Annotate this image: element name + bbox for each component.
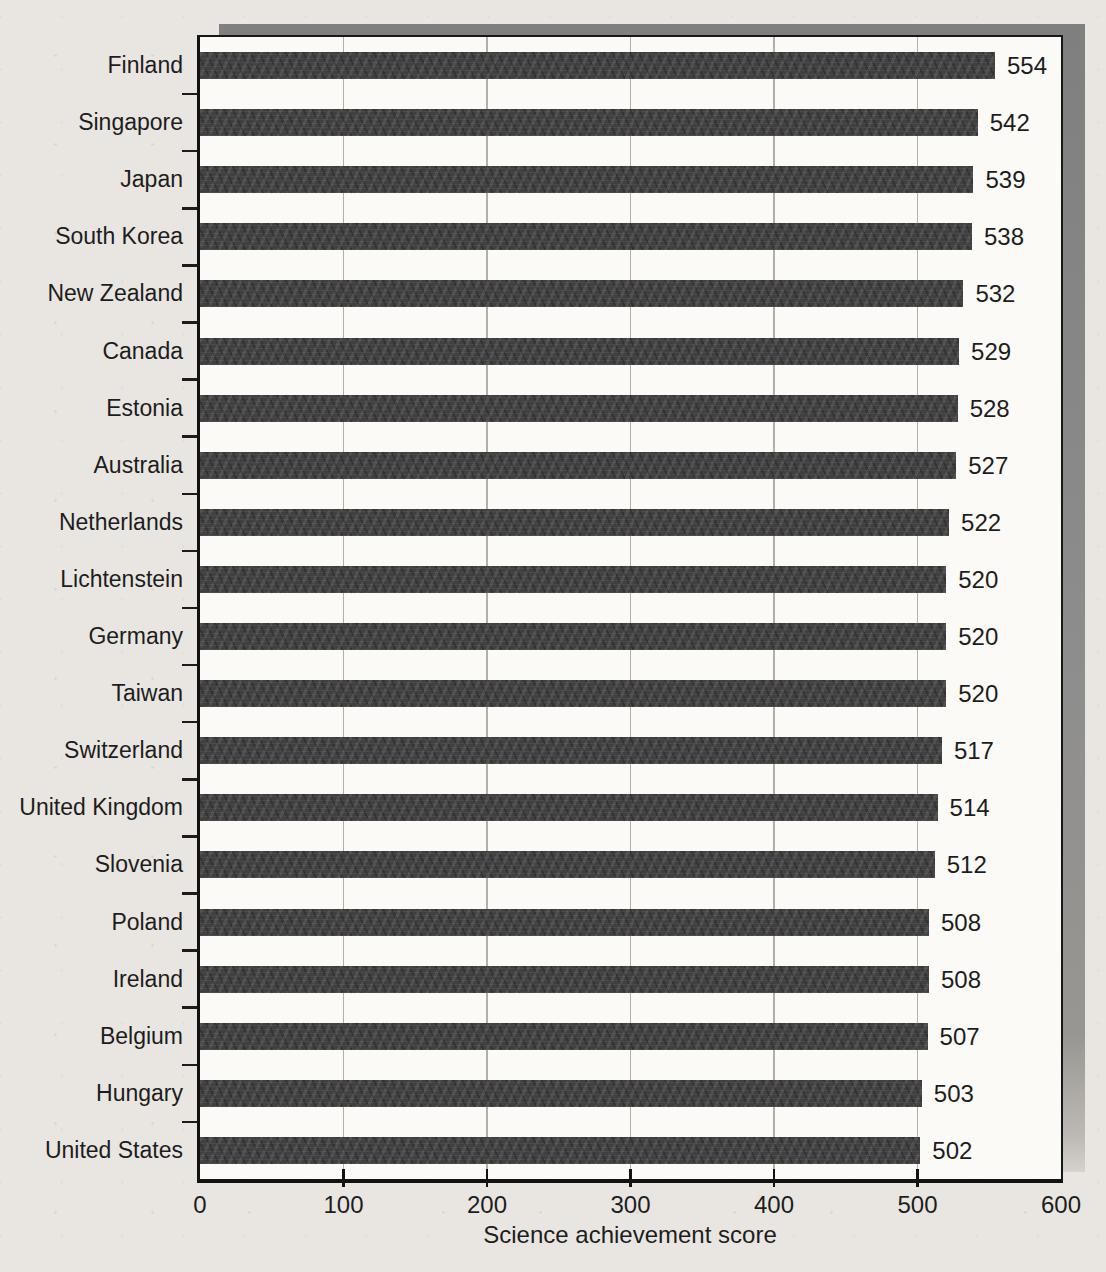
value-label-netherlands: 522: [961, 509, 1001, 536]
value-label-japan: 539: [985, 166, 1025, 193]
category-label-japan: Japan: [0, 166, 183, 193]
y-tick-14: [182, 835, 197, 838]
bar-taiwan: [200, 680, 946, 707]
y-tick-2: [182, 150, 197, 153]
y-tick-11: [182, 664, 197, 667]
x-tick-label-0: 0: [155, 1191, 245, 1219]
category-label-slovenia: Slovenia: [0, 851, 183, 878]
bar-chart-figure: 5545425395385325295285275225205205205175…: [0, 0, 1106, 1272]
bar-ireland: [200, 966, 929, 993]
bar-lichtenstein: [200, 566, 946, 593]
bar-united-states: [200, 1137, 920, 1164]
y-tick-16: [182, 949, 197, 952]
category-label-singapore: Singapore: [0, 109, 183, 136]
value-label-estonia: 528: [970, 395, 1010, 422]
bar-switzerland: [200, 737, 942, 764]
gridline-500: [917, 37, 919, 1179]
value-label-hungary: 503: [934, 1080, 974, 1107]
category-label-switzerland: Switzerland: [0, 737, 183, 764]
category-label-poland: Poland: [0, 909, 183, 936]
y-tick-10: [182, 607, 197, 610]
y-tick-17: [182, 1006, 197, 1009]
x-tick-100: [342, 1169, 345, 1187]
category-label-canada: Canada: [0, 338, 183, 365]
value-label-united-states: 502: [932, 1137, 972, 1164]
category-label-hungary: Hungary: [0, 1080, 183, 1107]
category-label-ireland: Ireland: [0, 966, 183, 993]
x-axis-tick-labels: 0100200300400500600: [200, 1191, 1061, 1219]
value-label-australia: 527: [968, 452, 1008, 479]
bar-finland: [200, 52, 995, 79]
value-label-canada: 529: [971, 338, 1011, 365]
bar-new-zealand: [200, 280, 963, 307]
bar-netherlands: [200, 509, 949, 536]
category-label-lichtenstein: Lichtenstein: [0, 566, 183, 593]
y-tick-19: [182, 1121, 197, 1124]
y-tick-8: [182, 493, 197, 496]
bar-hungary: [200, 1080, 922, 1107]
gridline-100: [343, 37, 345, 1179]
y-tick-18: [182, 1064, 197, 1067]
x-tick-400: [773, 1169, 776, 1187]
bar-south-korea: [200, 223, 972, 250]
category-label-united-states: United States: [0, 1137, 183, 1164]
plot-area: 5545425395385325295285275225205205205175…: [197, 35, 1063, 1183]
bar-japan: [200, 166, 973, 193]
y-tick-6: [182, 378, 197, 381]
x-tick-200: [486, 1169, 489, 1187]
value-label-taiwan: 520: [958, 680, 998, 707]
value-label-poland: 508: [941, 909, 981, 936]
y-tick-4: [182, 264, 197, 267]
y-tick-13: [182, 778, 197, 781]
category-label-estonia: Estonia: [0, 395, 183, 422]
category-label-netherlands: Netherlands: [0, 509, 183, 536]
y-tick-12: [182, 721, 197, 724]
x-tick-label-400: 400: [729, 1191, 819, 1219]
x-axis-title: Science achievement score: [197, 1221, 1063, 1249]
value-label-ireland: 508: [941, 966, 981, 993]
y-tick-9: [182, 550, 197, 553]
y-tick-7: [182, 435, 197, 438]
bar-singapore: [200, 109, 978, 136]
category-label-australia: Australia: [0, 452, 183, 479]
value-label-new-zealand: 532: [975, 280, 1015, 307]
bar-poland: [200, 909, 929, 936]
gridline-400: [773, 37, 775, 1179]
category-label-germany: Germany: [0, 623, 183, 650]
bar-australia: [200, 452, 956, 479]
bar-slovenia: [200, 851, 935, 878]
gridline-300: [630, 37, 632, 1179]
category-label-united-kingdom: United Kingdom: [0, 794, 183, 821]
y-tick-15: [182, 892, 197, 895]
category-labels: FinlandSingaporeJapanSouth KoreaNew Zeal…: [0, 35, 183, 1183]
x-tick-label-200: 200: [442, 1191, 532, 1219]
bar-estonia: [200, 395, 958, 422]
value-label-finland: 554: [1007, 52, 1047, 79]
bar-belgium: [200, 1023, 928, 1050]
value-label-slovenia: 512: [947, 851, 987, 878]
bar-germany: [200, 623, 946, 650]
x-tick-label-600: 600: [1016, 1191, 1106, 1219]
category-label-south-korea: South Korea: [0, 223, 183, 250]
gridline-200: [486, 37, 488, 1179]
y-tick-1: [182, 93, 197, 96]
value-label-south-korea: 538: [984, 223, 1024, 250]
y-tick-3: [182, 207, 197, 210]
value-label-belgium: 507: [940, 1023, 980, 1050]
value-label-switzerland: 517: [954, 737, 994, 764]
category-label-finland: Finland: [0, 52, 183, 79]
bar-united-kingdom: [200, 794, 938, 821]
x-tick-label-100: 100: [298, 1191, 388, 1219]
value-label-united-kingdom: 514: [950, 794, 990, 821]
category-label-taiwan: Taiwan: [0, 680, 183, 707]
x-tick-500: [916, 1169, 919, 1187]
value-label-lichtenstein: 520: [958, 566, 998, 593]
category-label-belgium: Belgium: [0, 1023, 183, 1050]
value-label-germany: 520: [958, 623, 998, 650]
x-tick-label-500: 500: [873, 1191, 963, 1219]
category-label-new-zealand: New Zealand: [0, 280, 183, 307]
x-tick-label-300: 300: [586, 1191, 676, 1219]
value-label-singapore: 542: [990, 109, 1030, 136]
x-tick-300: [629, 1169, 632, 1187]
y-tick-5: [182, 321, 197, 324]
